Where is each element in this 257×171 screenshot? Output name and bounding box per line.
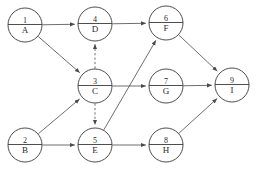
node-id-text: 8: [164, 136, 168, 145]
edge-f-to-i: [179, 35, 218, 71]
node-label-text: C: [92, 86, 98, 96]
node-layer: 1A2B3C4D5E6F7G8H9I: [8, 6, 249, 162]
diagram-canvas: 1A2B3C4D5E6F7G8H9I: [0, 0, 257, 171]
edge-b-to-c: [38, 99, 79, 134]
node-a[interactable]: 1A: [8, 8, 42, 42]
node-label-text: H: [163, 145, 170, 155]
node-id-text: 4: [93, 15, 97, 24]
node-id-text: 2: [23, 136, 27, 145]
node-label-text: B: [22, 145, 28, 155]
node-id-text: 1: [23, 16, 27, 25]
node-c[interactable]: 3C: [78, 69, 112, 103]
node-d[interactable]: 4D: [78, 7, 112, 41]
edge-layer: [38, 23, 217, 145]
edge-h-to-i: [179, 99, 217, 134]
node-g[interactable]: 7G: [149, 69, 183, 103]
network-diagram: 1A2B3C4D5E6F7G8H9I: [0, 0, 257, 171]
node-h[interactable]: 8H: [149, 128, 183, 162]
node-id-text: 9: [230, 76, 234, 85]
node-id-text: 7: [164, 77, 168, 86]
node-id-text: 5: [93, 136, 97, 145]
edge-a-to-c: [38, 36, 80, 72]
node-label-text: I: [231, 85, 234, 95]
node-e[interactable]: 5E: [78, 128, 112, 162]
node-label-text: G: [163, 86, 170, 96]
node-f[interactable]: 6F: [149, 6, 183, 40]
node-id-text: 3: [93, 77, 97, 86]
node-label-text: D: [92, 24, 99, 34]
node-label-text: F: [163, 23, 168, 33]
node-i[interactable]: 9I: [215, 68, 249, 102]
node-label-text: E: [92, 145, 98, 155]
node-b[interactable]: 2B: [8, 128, 42, 162]
node-id-text: 6: [164, 14, 168, 23]
node-label-text: A: [22, 25, 29, 35]
